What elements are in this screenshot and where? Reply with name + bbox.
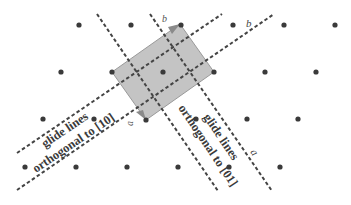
axis-label-b: b [246,17,252,29]
axis-label-a: a [248,146,261,158]
vector-label-a: a⃗ [124,113,135,126]
lattice-diagram: glide lines orthogonal to [10] glide lin… [0,0,351,205]
vector-label-b: b⃗ [162,13,175,24]
